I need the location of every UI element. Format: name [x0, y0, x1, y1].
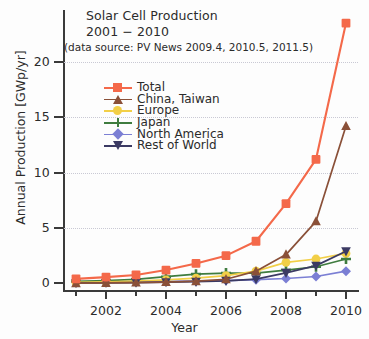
- legend-marker-triangle-up-icon: [104, 94, 132, 105]
- data-point: [282, 199, 291, 208]
- data-point: [311, 216, 321, 225]
- x-axis-label: Year: [0, 320, 369, 335]
- y-axis-label: Annual Production [GWp/yr]: [13, 38, 28, 238]
- legend-marker-diamond-icon: [104, 129, 132, 140]
- legend-marker-triangle-down-icon: [104, 140, 132, 151]
- data-point: [342, 19, 351, 28]
- data-point: [162, 266, 171, 275]
- data-point: [222, 251, 231, 260]
- legend-marker: [113, 106, 122, 115]
- legend-marker-plus-icon: [104, 117, 132, 128]
- legend-item: Rest of World: [104, 140, 224, 152]
- data-point: [311, 271, 321, 281]
- solar-cell-production-chart: Solar Cell Production 2001 − 2010 (data …: [0, 0, 369, 339]
- data-point: [102, 273, 111, 282]
- legend-marker: [113, 118, 122, 127]
- data-point: [252, 237, 261, 246]
- legend: TotalChina, TaiwanEuropeJapanNorth Ameri…: [104, 82, 224, 152]
- data-point: [192, 259, 201, 268]
- series-line: [76, 259, 346, 281]
- data-point: [132, 271, 141, 280]
- legend-marker: [113, 83, 122, 92]
- legend-marker: [113, 95, 123, 104]
- series-plot-area: [0, 0, 369, 339]
- data-point: [282, 258, 291, 267]
- legend-marker: [112, 129, 123, 140]
- legend-marker-circle-icon: [104, 105, 132, 116]
- data-point: [341, 121, 351, 130]
- legend-label: Rest of World: [137, 140, 217, 151]
- data-point: [72, 275, 81, 284]
- legend-marker-square-icon: [104, 82, 132, 93]
- legend-marker: [113, 141, 123, 150]
- data-point: [312, 155, 321, 164]
- data-point: [341, 266, 351, 276]
